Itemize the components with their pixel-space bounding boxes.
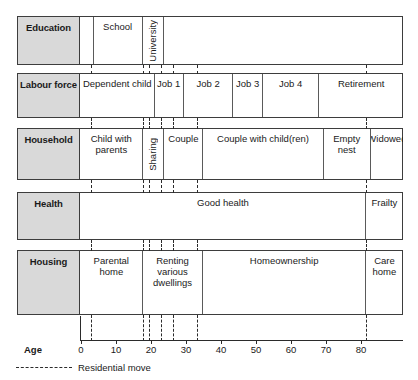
- residential-move-line: [91, 240, 92, 251]
- residential-move-line: [366, 65, 367, 74]
- segment: Sharing: [143, 129, 165, 179]
- row-label-labour-force: Labour force: [17, 73, 80, 118]
- residential-move-line: [173, 180, 174, 193]
- segment-label: Homeownership: [249, 255, 320, 266]
- segment: Couple with child(ren): [204, 129, 324, 179]
- residential-move-line: [91, 65, 92, 74]
- row-track: Dependent childJob 1Job 2Job 3Job 4Retir…: [80, 73, 403, 118]
- segment: Child with parents: [81, 129, 143, 179]
- residential-move-line: [173, 315, 174, 341]
- segment-label: Job 4: [278, 78, 303, 89]
- domain-row-labour-force: Labour forceDependent childJob 1Job 2Job…: [17, 73, 403, 118]
- residential-move-line: [197, 65, 198, 74]
- residential-move-line: [197, 118, 198, 129]
- residential-move-line: [161, 240, 162, 251]
- segment-label: Renting various dwellings: [143, 255, 203, 288]
- life-course-diagram: EducationSchoolUniversityLabour forceDep…: [0, 0, 418, 380]
- row-track: Parental homeRenting various dwellingsHo…: [80, 250, 403, 315]
- residential-move-line: [91, 315, 92, 341]
- residential-move-line: [91, 180, 92, 193]
- domain-row-education: EducationSchoolUniversity: [17, 16, 403, 65]
- segment-label: Job 3: [235, 78, 260, 89]
- segment-label: Sharing: [146, 138, 159, 171]
- residential-move-line: [173, 65, 174, 74]
- residential-move-line: [143, 118, 144, 129]
- axis-tick-label: 10: [111, 344, 122, 355]
- axis-origin-tick: [80, 316, 81, 341]
- residential-move-line: [173, 118, 174, 129]
- residential-move-line: [149, 180, 150, 193]
- segment-label: Retirement: [337, 78, 385, 89]
- axis-title: Age: [24, 344, 42, 355]
- segment: Job 2: [184, 74, 233, 117]
- residential-move-line: [161, 118, 162, 129]
- axis-tick-label: 60: [286, 344, 297, 355]
- segment-label: Empty nest: [324, 133, 370, 155]
- segment: University: [143, 17, 165, 64]
- axis-tick-label: 40: [216, 344, 227, 355]
- segment: School: [94, 17, 143, 64]
- segment: Dependent child: [81, 74, 155, 117]
- residential-move-line: [161, 315, 162, 341]
- residential-move-line: [366, 315, 367, 341]
- row-track: Child with parentsSharingCoupleCouple wi…: [80, 128, 403, 180]
- segment: Care home: [366, 251, 403, 314]
- axis-tick-label: 80: [356, 344, 367, 355]
- residential-move-line: [366, 180, 367, 193]
- segment: Retirement: [319, 74, 403, 117]
- legend: Residential move: [16, 362, 151, 373]
- segment: [164, 17, 403, 64]
- segment-label: Parental home: [81, 255, 142, 277]
- segment: Job 4: [263, 74, 319, 117]
- residential-move-line: [149, 118, 150, 129]
- segment-label: Job 1: [156, 78, 181, 89]
- segment-label: Frailty: [371, 197, 399, 208]
- segment-label: Couple: [167, 133, 199, 144]
- segment: Job 3: [233, 74, 263, 117]
- row-label-housing: Housing: [17, 250, 80, 315]
- axis-tick-label: 20: [146, 344, 157, 355]
- residential-move-line: [91, 118, 92, 129]
- legend-label: Residential move: [78, 362, 151, 373]
- segment-label: Couple with child(ren): [216, 133, 310, 144]
- segment-label: Good health: [196, 197, 250, 208]
- row-track: Good healthFrailty: [80, 192, 403, 240]
- axis-tick-label: 30: [181, 344, 192, 355]
- segment-label: Widowed: [371, 133, 403, 144]
- segment: Job 1: [155, 74, 184, 117]
- segment: Empty nest: [324, 129, 371, 179]
- axis-tick-label: 70: [321, 344, 332, 355]
- residential-move-line: [149, 65, 150, 74]
- segment: Widowed: [371, 129, 403, 179]
- segment-label: School: [102, 21, 133, 32]
- segment: Renting various dwellings: [143, 251, 204, 314]
- residential-move-line: [173, 240, 174, 251]
- residential-move-line: [197, 180, 198, 193]
- domain-row-household: HouseholdChild with parentsSharingCouple…: [17, 128, 403, 180]
- segment-label: Care home: [366, 255, 403, 277]
- residential-move-line: [149, 240, 150, 251]
- domain-row-housing: HousingParental homeRenting various dwel…: [17, 250, 403, 315]
- segment-label: Child with parents: [81, 133, 142, 155]
- residential-move-line: [149, 315, 150, 341]
- residential-move-line: [197, 240, 198, 251]
- axis-tick-label: 50: [251, 344, 262, 355]
- clipped-header-text: [16, 0, 216, 4]
- residential-move-line: [143, 65, 144, 74]
- residential-move-line: [143, 180, 144, 193]
- residential-move-line: [143, 315, 144, 341]
- domain-row-health: HealthGood healthFrailty: [17, 192, 403, 240]
- residential-move-line: [366, 240, 367, 251]
- segment-label: Dependent child: [82, 78, 153, 89]
- segment: Parental home: [81, 251, 143, 314]
- residential-move-line: [366, 118, 367, 129]
- row-label-health: Health: [17, 192, 80, 240]
- axis-line: [81, 340, 403, 341]
- residential-move-line: [161, 180, 162, 193]
- residential-move-line: [197, 315, 198, 341]
- row-track: SchoolUniversity: [80, 16, 403, 65]
- axis-tick-label: 0: [78, 344, 83, 355]
- segment-label: University: [146, 20, 159, 62]
- legend-dashed-line-swatch: [16, 367, 72, 368]
- residential-move-line: [143, 240, 144, 251]
